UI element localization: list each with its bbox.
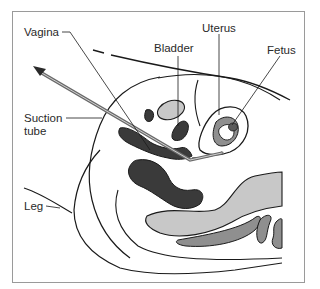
label-vagina: Vagina (24, 26, 59, 38)
dark-tissue-center (128, 160, 202, 209)
suction-tube (40, 72, 222, 160)
leader-leg (46, 206, 60, 208)
bladder-shape (155, 97, 187, 123)
leader-fetus (232, 56, 280, 125)
suction-tube-highlight (40, 72, 222, 160)
label-suction-tube-line2: tube (24, 125, 46, 137)
label-bladder: Bladder (154, 42, 194, 54)
tissue-mid-3 (272, 219, 282, 249)
dark-tissue-small (145, 110, 154, 122)
label-leg: Leg (24, 200, 43, 212)
dark-tissue-bladder-neck (172, 121, 188, 140)
uterus-back-line (195, 80, 200, 126)
label-uterus: Uterus (202, 22, 236, 34)
label-suction-tube-line1: Suction (24, 112, 62, 124)
label-fetus: Fetus (267, 44, 296, 56)
